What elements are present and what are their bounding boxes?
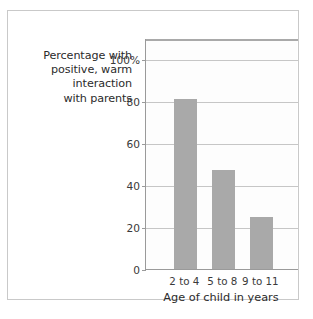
gridline bbox=[146, 60, 298, 61]
y-axis-tick-mark bbox=[142, 144, 146, 145]
y-axis-tick-label: 40 bbox=[127, 180, 140, 192]
x-axis-title: Age of child in years bbox=[145, 291, 297, 304]
bar bbox=[174, 99, 197, 269]
x-axis-category-label: 5 to 8 bbox=[207, 275, 237, 287]
bar bbox=[250, 217, 273, 270]
gridline bbox=[146, 102, 298, 103]
y-axis-tick-mark bbox=[142, 102, 146, 103]
plot-top-rule bbox=[146, 39, 298, 41]
bar bbox=[212, 170, 235, 269]
chart-figure-frame: Percentage with positive, warm interacti… bbox=[7, 10, 299, 300]
y-axis-tick-mark bbox=[142, 60, 146, 61]
y-axis-title-line-3: interaction bbox=[16, 77, 132, 91]
x-axis-line bbox=[146, 269, 298, 270]
y-axis-tick-label: 0 bbox=[133, 264, 140, 276]
y-axis-tick-label: 20 bbox=[127, 222, 140, 234]
gridline bbox=[146, 144, 298, 145]
y-axis-tick-mark bbox=[142, 270, 146, 271]
y-axis-tick-mark bbox=[142, 186, 146, 187]
plot-area: 020406080100% bbox=[145, 39, 297, 270]
y-axis-tick-label: 60 bbox=[127, 138, 140, 150]
y-axis-title-line-4: with parents bbox=[16, 92, 132, 106]
x-axis-category-label: 9 to 11 bbox=[242, 275, 279, 287]
y-axis-tick-mark bbox=[142, 228, 146, 229]
x-axis-category-label: 2 to 4 bbox=[169, 275, 199, 287]
y-axis-tick-label: 80 bbox=[127, 96, 140, 108]
y-axis-tick-label: 100% bbox=[110, 54, 140, 66]
